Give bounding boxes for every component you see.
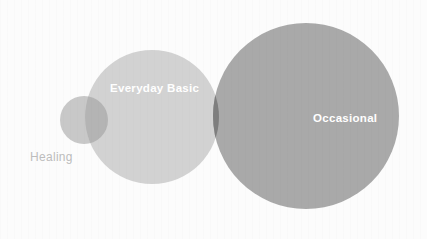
set-label-everyday-basic: Everyday Basic	[110, 82, 199, 94]
venn-diagram-canvas: Healing Everyday Basic Occasional	[0, 0, 427, 239]
set-label-occasional: Occasional	[313, 112, 377, 124]
set-label-healing: Healing	[30, 150, 73, 164]
